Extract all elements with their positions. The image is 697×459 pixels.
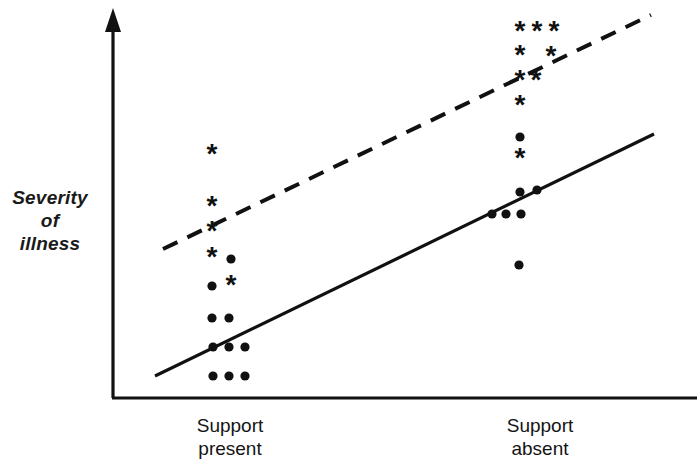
x-tick-support-absent-line-0: Support (450, 414, 630, 437)
data-point-asterisk: * (515, 142, 526, 173)
data-point-dot (224, 371, 233, 380)
data-point-asterisk: * (226, 269, 237, 300)
data-point-dot (501, 209, 510, 218)
data-point-asterisk: * (531, 64, 542, 95)
y-axis-label-line-2: illness (0, 232, 100, 255)
data-point-asterisk: * (546, 40, 557, 71)
y-axis-label: Severityofillness (0, 186, 100, 255)
data-point-asterisk: * (207, 241, 218, 272)
data-point-dot (516, 209, 525, 218)
data-point-dot (224, 342, 233, 351)
y-axis-arrowhead (105, 8, 121, 32)
data-point-dot (208, 342, 217, 351)
plot-canvas: ************** (0, 0, 697, 459)
x-tick-support-absent-line-1: absent (450, 437, 630, 459)
data-point-dot (207, 313, 216, 322)
data-point-dot (514, 260, 523, 269)
data-point-asterisk: * (207, 138, 218, 169)
data-point-asterisk: * (515, 89, 526, 120)
data-point-dot (240, 342, 249, 351)
x-tick-support-present-line-0: Support (140, 414, 320, 437)
data-point-dot (515, 132, 524, 141)
y-axis-label-line-1: of (0, 209, 100, 232)
axes-group (105, 8, 697, 398)
data-point-dot (226, 254, 235, 263)
data-point-asterisk: * (532, 15, 543, 46)
data-point-dot (240, 371, 249, 380)
data-point-dot (532, 185, 541, 194)
data-point-dot (207, 281, 216, 290)
data-point-dot (487, 209, 496, 218)
x-tick-label-support-absent: Supportabsent (450, 414, 630, 459)
data-point-dot (515, 187, 524, 196)
trend-line-dashed (163, 15, 651, 249)
x-tick-label-support-present: Supportpresent (140, 414, 320, 459)
y-axis-label-line-0: Severity (0, 186, 100, 209)
x-tick-support-present-line-1: present (140, 437, 320, 459)
scatter-plot-figure: ************** Severityofillness Support… (0, 0, 697, 459)
data-point-dot (224, 313, 233, 322)
data-point-dot (208, 371, 217, 380)
